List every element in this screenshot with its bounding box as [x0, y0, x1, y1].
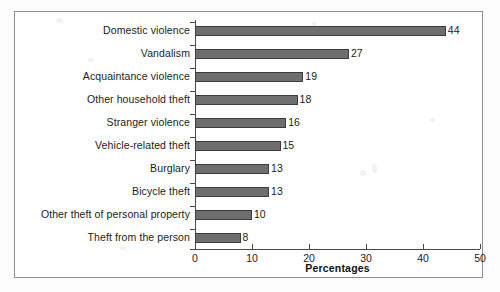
bar-value-label: 27	[351, 47, 363, 59]
bar[interactable]	[195, 233, 241, 243]
category-label: Vandalism	[10, 47, 190, 59]
y-axis-tick	[190, 137, 195, 138]
bar[interactable]	[195, 141, 281, 151]
bar-value-label: 19	[305, 70, 317, 82]
bar-value-label: 10	[254, 208, 266, 220]
x-axis-tick	[423, 244, 424, 249]
bar[interactable]	[195, 164, 269, 174]
bar[interactable]	[195, 118, 286, 128]
category-label: Theft from the person	[10, 231, 190, 243]
x-axis-title: Percentages	[195, 262, 480, 274]
x-axis-tick	[309, 244, 310, 249]
category-label: Vehicle-related theft	[10, 139, 190, 151]
bar-value-label: 13	[271, 185, 283, 197]
category-label: Bicycle theft	[10, 185, 190, 197]
y-axis-tick	[190, 22, 195, 23]
bar[interactable]	[195, 72, 303, 82]
category-label: Acquaintance violence	[10, 70, 190, 82]
x-axis-tick	[252, 244, 253, 249]
bar-value-label: 16	[288, 116, 300, 128]
bar-value-label: 13	[271, 162, 283, 174]
y-axis-tick	[190, 229, 195, 230]
y-axis-tick	[190, 206, 195, 207]
bar[interactable]	[195, 49, 349, 59]
x-axis-line	[195, 249, 480, 250]
bar[interactable]	[195, 26, 446, 36]
x-axis-tick	[480, 244, 481, 249]
category-label: Burglary	[10, 162, 190, 174]
x-axis-tick	[195, 244, 196, 249]
bar-value-label: 18	[300, 93, 312, 105]
plot-area: Domestic violence Vandalism Acquaintance…	[0, 0, 500, 292]
bar-value-label: 44	[448, 24, 460, 36]
y-axis-tick	[190, 45, 195, 46]
y-axis-tick	[190, 68, 195, 69]
x-axis-tick	[366, 244, 367, 249]
category-label: Other theft of personal property	[10, 208, 190, 220]
y-axis-tick	[190, 160, 195, 161]
category-label: Domestic violence	[10, 24, 190, 36]
figure-container: Domestic violence Vandalism Acquaintance…	[0, 0, 500, 292]
bar[interactable]	[195, 187, 269, 197]
y-axis-tick	[190, 183, 195, 184]
bar-value-label: 8	[243, 231, 249, 243]
y-axis-tick	[190, 91, 195, 92]
bar[interactable]	[195, 95, 298, 105]
bar[interactable]	[195, 210, 252, 220]
category-label: Stranger violence	[10, 116, 190, 128]
bar-value-label: 15	[283, 139, 295, 151]
y-axis-tick	[190, 114, 195, 115]
category-label: Other household theft	[10, 93, 190, 105]
y-axis-tick	[190, 249, 195, 250]
